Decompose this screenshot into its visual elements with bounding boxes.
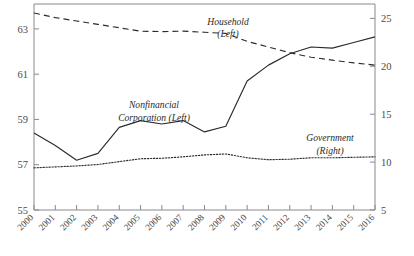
- line-chart: 5557596163 510152025 2000200120022003200…: [0, 0, 414, 256]
- right-tick-label: 20: [381, 61, 392, 72]
- chart-container: 5557596163 510152025 2000200120022003200…: [0, 0, 414, 256]
- left-tick-label: 59: [18, 114, 29, 125]
- annotation-nonfinancial-line2: Corporation (Left): [118, 112, 190, 124]
- annotation-household-line2: (Left): [217, 28, 238, 40]
- annotation-household-line1: Household: [206, 16, 249, 27]
- right-tick-label: 10: [381, 157, 392, 168]
- annotation-nonfinancial-line1: Nonfinancial: [128, 99, 179, 110]
- annotation-government-line1: Government: [306, 132, 354, 143]
- left-tick-label: 61: [18, 69, 29, 80]
- annotation-government-line2: (Right): [316, 145, 343, 157]
- left-tick-label: 57: [18, 159, 29, 170]
- right-tick-label: 15: [381, 109, 392, 120]
- right-tick-label: 5: [381, 205, 386, 216]
- right-tick-label: 25: [381, 13, 392, 24]
- left-tick-label: 63: [18, 24, 29, 35]
